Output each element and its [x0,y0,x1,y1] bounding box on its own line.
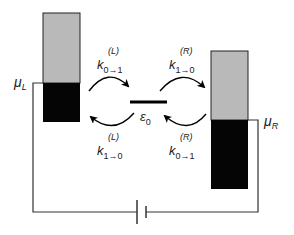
mu-right-label: μR [264,114,278,131]
left-electrode [43,13,80,122]
arrow-bottom-right [165,114,206,126]
battery-icon [137,200,146,224]
rate-label-top-left: (L)k0→1 [97,58,123,75]
rate-label-top-right: (R)k1→0 [169,58,195,75]
rate-label-bottom-left: (L)k1→0 [97,144,123,161]
mu-left-label: μL [14,75,27,92]
right-electrode [211,51,248,189]
arrow-top-left [89,77,128,91]
rate-label-bottom-right: (R)k0→1 [169,144,195,161]
arrow-bottom-left [91,113,134,126]
epsilon-label: ε0 [140,110,151,127]
arrow-top-right [160,77,204,91]
